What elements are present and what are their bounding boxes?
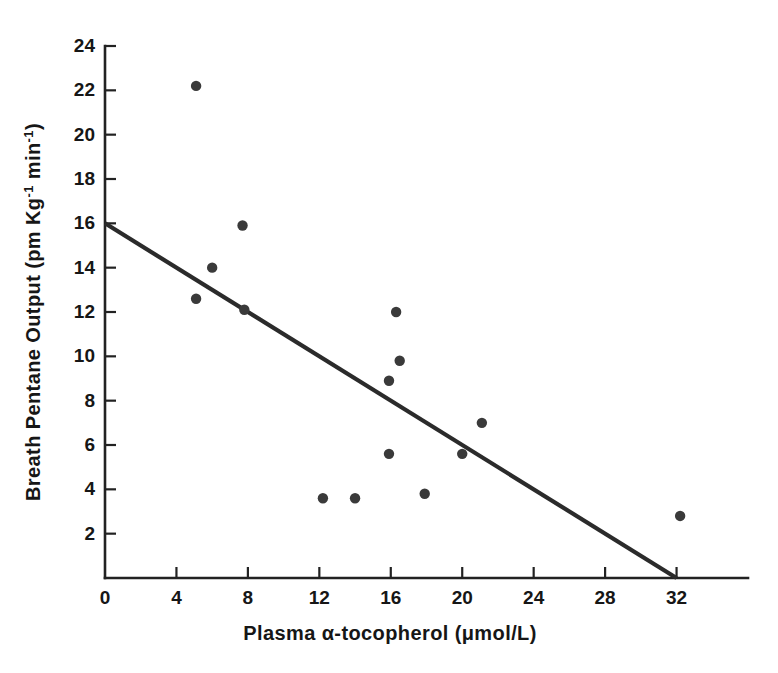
y-tick-label: 4	[84, 478, 95, 499]
x-axis-title-alpha: α	[322, 622, 335, 644]
scatter-plot-svg: Breath Pentane Output (pm Kg-1 min-1) Pl…	[0, 0, 778, 673]
y-axis-title-close: )	[22, 123, 44, 130]
x-tick-label: 28	[595, 587, 616, 608]
y-tick-label: 16	[74, 212, 95, 233]
data-point	[477, 418, 487, 428]
x-tick-label: 4	[171, 587, 182, 608]
data-point	[395, 356, 405, 366]
data-point	[191, 294, 201, 304]
y-tick-label: 18	[74, 168, 95, 189]
data-point	[239, 305, 249, 315]
data-point	[391, 307, 401, 317]
x-tick-label: 24	[523, 587, 545, 608]
svg-text:Breath Pentane Output (pm Kg-1: Breath Pentane Output (pm Kg-1 min-1)	[21, 123, 44, 501]
y-tick-label: 2	[84, 523, 95, 544]
data-point	[384, 376, 394, 386]
data-point	[318, 493, 328, 503]
y-axis-title-mid: min	[22, 142, 44, 185]
x-axis-title-lead: Plasma	[243, 622, 321, 644]
y-tick-label: 6	[84, 434, 95, 455]
svg-text:Plasma α-tocopherol (μmol/L): Plasma α-tocopherol (μmol/L)	[243, 622, 537, 644]
x-axis-title: Plasma α-tocopherol (μmol/L)	[243, 622, 537, 644]
data-point	[191, 81, 201, 91]
x-axis-title-rest: -tocopherol (μmol/L)	[334, 622, 536, 644]
data-point	[457, 449, 467, 459]
y-axis-ticks: 24681012141618202224	[74, 35, 116, 544]
chart-figure: Breath Pentane Output (pm Kg-1 min-1) Pl…	[0, 0, 778, 673]
y-tick-label: 8	[84, 390, 95, 411]
y-tick-label: 22	[74, 79, 95, 100]
x-tick-label: 32	[666, 587, 687, 608]
data-point	[237, 220, 247, 230]
y-tick-label: 24	[74, 35, 96, 56]
regression-line	[105, 223, 677, 578]
x-axis-ticks: 048121620242832	[100, 567, 687, 608]
y-tick-label: 10	[74, 345, 95, 366]
y-tick-label: 20	[74, 124, 95, 145]
x-tick-label: 8	[243, 587, 254, 608]
data-point	[350, 493, 360, 503]
x-tick-label: 20	[452, 587, 473, 608]
y-tick-label: 12	[74, 301, 95, 322]
y-axis-title-base: Breath Pentane Output (pm Kg	[22, 198, 44, 501]
data-point	[207, 262, 217, 272]
regression-line-group	[105, 223, 677, 578]
y-axis-title-sup2: -1	[21, 130, 36, 142]
x-tick-label: 16	[380, 587, 401, 608]
data-point	[420, 489, 430, 499]
y-axis-title-sup1: -1	[21, 185, 36, 197]
x-tick-label: 0	[100, 587, 111, 608]
data-points-group	[191, 81, 685, 521]
y-tick-label: 14	[74, 257, 96, 278]
y-axis-title: Breath Pentane Output (pm Kg-1 min-1)	[21, 123, 44, 501]
data-point	[675, 511, 685, 521]
x-tick-label: 12	[309, 587, 330, 608]
data-point	[384, 449, 394, 459]
